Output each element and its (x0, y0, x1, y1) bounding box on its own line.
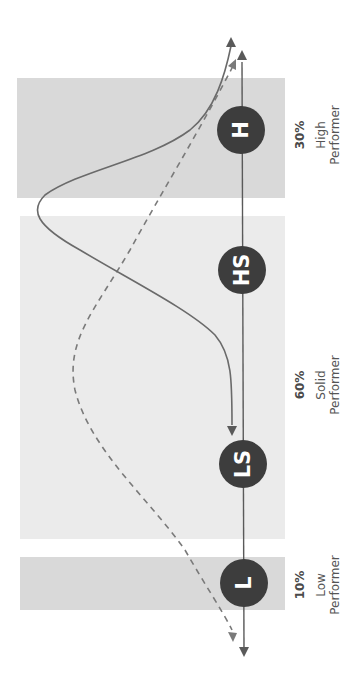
solid-arrow-top-icon (226, 37, 236, 47)
label-solid-line2: Performer (328, 355, 342, 414)
node-low: L (220, 559, 268, 607)
segment-label-low: 10% Low Performer (293, 555, 342, 614)
percent-solid: 60% (293, 371, 307, 400)
label-high-line1: High (314, 121, 328, 149)
segment-label-solid: 60% Solid Performer (293, 355, 342, 414)
node-high-solid: HS (218, 246, 266, 294)
performance-distribution-diagram: H HS LS L 30% High Performer 60% Solid P… (0, 0, 359, 686)
dashed-arrow-bottom-icon (228, 632, 237, 642)
percent-high: 30% (293, 121, 307, 150)
axis-arrow-bottom-icon (239, 647, 249, 657)
label-solid-line1: Solid (314, 370, 328, 399)
axis-arrow-top-icon (237, 50, 247, 60)
node-label-high: H (229, 121, 253, 139)
node-low-solid: LS (219, 440, 267, 488)
percent-low: 10% (293, 571, 307, 600)
node-label-low: L (232, 576, 256, 589)
node-label-high-solid: HS (230, 254, 254, 287)
segment-label-high: 30% High Performer (293, 105, 342, 164)
label-high-line2: Performer (328, 105, 342, 164)
label-low-line2: Performer (328, 555, 342, 614)
label-low-line1: Low (314, 573, 328, 597)
node-high: H (217, 106, 265, 154)
node-label-low-solid: LS (231, 450, 255, 479)
